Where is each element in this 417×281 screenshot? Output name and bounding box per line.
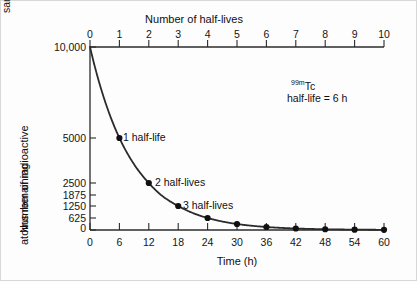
y-axis-ticks: [90, 47, 96, 230]
data-point-marker: [175, 203, 181, 209]
plot-canvas: [1, 1, 417, 281]
data-point-marker: [293, 225, 299, 231]
half-life-decay-figure: Initial sample Number of radioactive ato…: [0, 0, 417, 281]
data-point-marker: [146, 180, 152, 186]
data-point-markers: [116, 135, 387, 233]
data-point-marker: [116, 135, 122, 141]
data-point-marker: [381, 227, 387, 233]
axis-lines: [90, 47, 384, 230]
data-point-marker: [352, 227, 358, 233]
decay-curve: [90, 47, 384, 230]
data-point-marker: [322, 226, 328, 232]
data-point-marker: [205, 215, 211, 221]
data-point-marker: [263, 224, 269, 230]
data-point-marker: [234, 221, 240, 227]
top-axis-ticks: [90, 40, 384, 47]
